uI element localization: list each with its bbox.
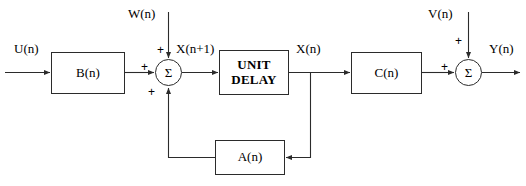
label-output-y: Y(n) bbox=[489, 41, 514, 57]
wire-feedback-tap-to-a bbox=[286, 73, 311, 158]
sign-right-sum-input-c: + bbox=[441, 61, 448, 73]
block-unit-delay-label-line2: DELAY bbox=[231, 72, 276, 87]
block-a[interactable]: A(n) bbox=[215, 140, 285, 175]
sigma-icon: Σ bbox=[165, 65, 173, 81]
sign-left-sum-input-w: + bbox=[157, 44, 164, 56]
block-c-label: C(n) bbox=[375, 66, 399, 81]
block-a-label: A(n) bbox=[238, 150, 263, 165]
wire-a-to-sum bbox=[169, 88, 216, 158]
block-unit-delay-label-line1: UNIT bbox=[237, 57, 270, 72]
label-state: X(n) bbox=[296, 41, 321, 57]
sign-left-sum-input-u: + bbox=[141, 61, 148, 73]
sign-left-sum-input-feedback: + bbox=[148, 86, 155, 98]
block-unit-delay[interactable]: UNIT DELAY bbox=[219, 50, 289, 95]
label-noise-w: W(n) bbox=[128, 6, 155, 22]
block-b[interactable]: B(n) bbox=[51, 52, 125, 94]
summing-junction-left[interactable]: Σ bbox=[155, 59, 182, 86]
summing-junction-right[interactable]: Σ bbox=[455, 59, 482, 86]
label-state-next: X(n+1) bbox=[176, 41, 214, 57]
sign-right-sum-input-v: + bbox=[455, 35, 462, 47]
label-noise-v: V(n) bbox=[428, 6, 453, 22]
block-unit-delay-label: UNIT DELAY bbox=[231, 58, 276, 87]
block-b-label: B(n) bbox=[76, 66, 100, 81]
sigma-icon: Σ bbox=[465, 65, 473, 81]
label-input-u: U(n) bbox=[14, 41, 39, 57]
block-diagram: B(n) UNIT DELAY C(n) A(n) Σ Σ + + + + + … bbox=[0, 0, 526, 186]
block-c[interactable]: C(n) bbox=[351, 52, 422, 94]
